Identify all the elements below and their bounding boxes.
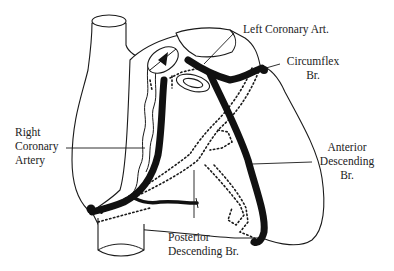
posterior-text-2: Descending Br. bbox=[168, 244, 239, 258]
label-left-coronary: Left Coronary Art. bbox=[243, 22, 329, 36]
right-coronary-text-1: Right bbox=[15, 125, 58, 139]
label-posterior-descending: Posterior Descending Br. bbox=[168, 230, 239, 258]
label-right-coronary: Right Coronary Artery bbox=[15, 125, 58, 167]
right-coronary-text-3: Artery bbox=[15, 153, 58, 167]
circumflex-text-2: Br. bbox=[282, 68, 344, 82]
right-coronary-text-2: Coronary bbox=[15, 139, 58, 153]
label-circumflex: Circumflex Br. bbox=[282, 54, 344, 82]
circumflex-text-1: Circumflex bbox=[282, 54, 344, 68]
anterior-text-3: Br. bbox=[314, 168, 380, 182]
label-anterior-descending: Anterior Descending Br. bbox=[314, 140, 380, 182]
left-coronary-text: Left Coronary Art. bbox=[243, 23, 329, 35]
posterior-text-1: Posterior bbox=[168, 230, 239, 244]
anterior-text-1: Anterior bbox=[314, 140, 380, 154]
anterior-text-2: Descending bbox=[314, 154, 380, 168]
coronary-artery-diagram: Left Coronary Art. Circumflex Br. Right … bbox=[0, 0, 394, 271]
inferior-vena-cava bbox=[98, 218, 144, 256]
